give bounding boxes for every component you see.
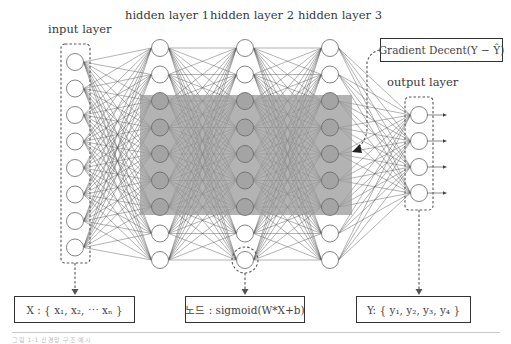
neuron-node (322, 93, 339, 110)
neuron-node (322, 146, 339, 163)
neuron-node (67, 186, 84, 203)
neuron-node (411, 185, 428, 202)
neuron-node (322, 199, 339, 216)
neuron-node (67, 133, 84, 150)
neuron-node (237, 40, 254, 57)
caption-divider (12, 332, 500, 333)
neuron-node (322, 225, 339, 242)
hidden-layer-3-label: hidden layer 3 (298, 8, 382, 22)
neuron-node (67, 54, 84, 71)
neuron-node (237, 252, 254, 269)
figure-caption: 그림 1-1 신경망 구조 예시 (12, 335, 91, 344)
neuron-node (67, 160, 84, 177)
output-layer-label: output layer (387, 75, 458, 89)
neuron-node (237, 199, 254, 216)
neuron-node (237, 66, 254, 83)
node-formula-box: 노드 : sigmoid(W*X+b) (185, 296, 305, 323)
neuron-node (152, 172, 169, 189)
neuron-node (152, 119, 169, 136)
neuron-node (322, 252, 339, 269)
neuron-node (152, 146, 169, 163)
neuron-node (152, 66, 169, 83)
input-layer-label: input layer (48, 22, 111, 36)
input-vector-box: X : { x₁, x₂, ⋯ xₙ } (14, 296, 135, 323)
neuron-node (237, 119, 254, 136)
neuron-node (322, 66, 339, 83)
neuron-node (322, 40, 339, 57)
hidden-layer-2-label: hidden layer 2 (210, 8, 294, 22)
neuron-node (152, 40, 169, 57)
neuron-node (152, 225, 169, 242)
neuron-node (411, 159, 428, 176)
neuron-node (411, 133, 428, 150)
neuron-node (152, 93, 169, 110)
output-vector-box: Y: { y₁, y₂, y₃, y₄ } (356, 296, 471, 323)
neuron-node (67, 80, 84, 97)
neuron-node (322, 172, 339, 189)
neuron-node (67, 213, 84, 230)
neuron-nodes (67, 40, 428, 269)
neuron-node (237, 93, 254, 110)
neuron-node (237, 225, 254, 242)
neuron-node (67, 239, 84, 256)
hidden-layer-1-label: hidden layer 1 (125, 8, 209, 22)
neuron-node (322, 119, 339, 136)
neuron-node (237, 172, 254, 189)
neuron-node (152, 252, 169, 269)
neuron-node (67, 107, 84, 124)
gradient-descent-box: Gradient Decent(Y − Ŷ) (380, 38, 503, 62)
neuron-node (152, 199, 169, 216)
neuron-node (237, 146, 254, 163)
neuron-node (411, 107, 428, 124)
